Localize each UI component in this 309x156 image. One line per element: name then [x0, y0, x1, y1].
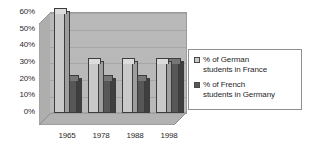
- x-axis-label: 1978: [84, 131, 118, 140]
- legend-label-german: % of German students in France: [203, 55, 267, 75]
- bar-group: [54, 12, 77, 113]
- bar-group: [156, 12, 179, 113]
- y-axis-label: 30%: [20, 58, 35, 66]
- y-axis: 0%10%20%30%40%50%60%: [0, 0, 38, 156]
- plot-area: [39, 12, 186, 125]
- bar-face: [54, 13, 65, 113]
- y-axis-label: 60%: [20, 8, 35, 16]
- x-axis-label: 1965: [50, 131, 84, 140]
- legend-label-french-line2: students in Germany: [203, 90, 275, 99]
- legend-swatch-icon-german: [194, 57, 200, 63]
- x-axis: 1965197819881998: [39, 131, 199, 147]
- bars-layer: [50, 12, 186, 113]
- legend-label-german-line1: % of German: [203, 55, 249, 64]
- x-axis-label: 1988: [118, 131, 152, 140]
- bar-top: [156, 58, 169, 64]
- bar-top: [54, 8, 67, 14]
- legend-item-french: % of French students in Germany: [194, 80, 297, 100]
- bar-1978-series-1: [88, 63, 99, 113]
- y-axis-label: 0%: [24, 108, 35, 116]
- legend: % of German students in France % of Fren…: [188, 49, 302, 110]
- x-axis-label: 1998: [152, 131, 186, 140]
- bar-1965-series-1: [54, 13, 65, 113]
- legend-swatch-icon-french: [194, 82, 200, 88]
- y-axis-label: 40%: [20, 41, 35, 49]
- legend-label-french: % of French students in Germany: [203, 80, 275, 100]
- legend-label-german-line2: students in France: [203, 65, 267, 74]
- bar-face: [122, 63, 133, 113]
- bar-face: [88, 63, 99, 113]
- bar-face: [156, 63, 167, 113]
- bar-1998-series-1: [156, 63, 167, 113]
- bar-chart: 0%10%20%30%40%50%60% 1965197819881998: [0, 0, 309, 156]
- bar-top: [122, 58, 135, 64]
- bar-top: [88, 58, 101, 64]
- bar-group: [122, 12, 145, 113]
- bar-1988-series-1: [122, 63, 133, 113]
- legend-item-german: % of German students in France: [194, 55, 297, 75]
- y-axis-label: 10%: [20, 91, 35, 99]
- y-axis-label: 20%: [20, 75, 35, 83]
- bar-group: [88, 12, 111, 113]
- y-axis-label: 50%: [20, 25, 35, 33]
- legend-label-french-line1: % of French: [203, 80, 245, 89]
